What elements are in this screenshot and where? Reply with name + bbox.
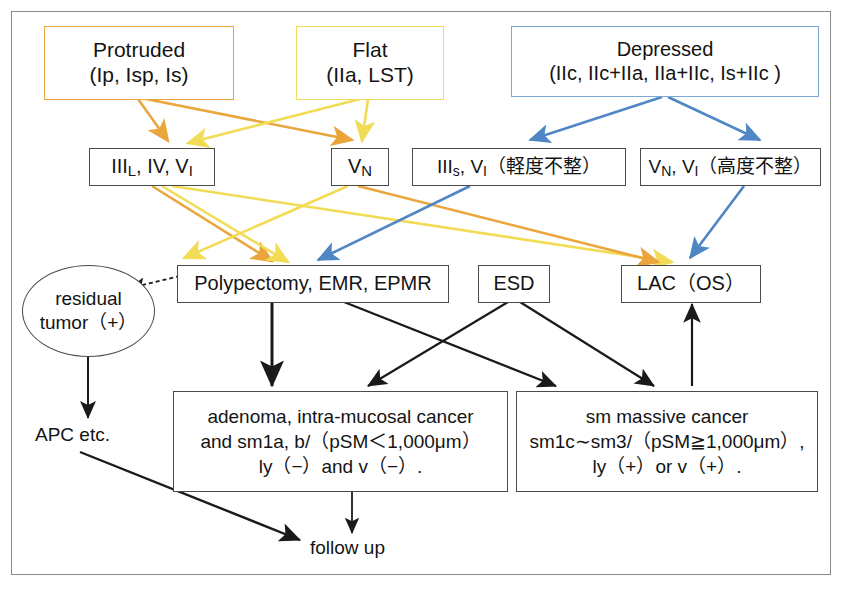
node-flat[interactable]: Flat (IIa, LST): [296, 26, 444, 100]
protruded-line1: Protruded: [93, 38, 185, 63]
arrow-protruded-to-pit-vn: [146, 99, 352, 140]
node-esd[interactable]: ESD: [478, 265, 550, 303]
node-residual-tumor[interactable]: residual tumor（+）: [22, 265, 155, 357]
pit-vn-label: VN: [348, 155, 372, 179]
outcome-left-line2: and sm1a, b/（pSM＜1,000μm）: [200, 429, 480, 454]
lac-label: LAC（OS）: [637, 272, 745, 296]
node-pit-pattern-vn[interactable]: VN: [331, 148, 389, 186]
node-pit-pattern-left[interactable]: IIIL, IV, VI: [89, 148, 215, 186]
residual-line1: residual: [55, 287, 122, 311]
node-protruded[interactable]: Protruded (Ip, Isp, Is): [44, 26, 234, 100]
outcome-right-line1: sm massive cancer: [586, 404, 749, 429]
arrow-pitvn-to-lac-orange: [358, 186, 658, 262]
arrow-pitsevere-to-lac-blue: [690, 186, 744, 258]
arrow-esd-to-outcome-left: [368, 302, 508, 386]
outcome-right-line3: ly（+）or v（+）.: [593, 454, 742, 479]
pit-left-label: IIIL, IV, VI: [111, 155, 193, 179]
depressed-line2: (IIc, IIc+IIa, IIa+IIc, Is+IIc ): [549, 62, 781, 86]
flat-line1: Flat: [352, 38, 387, 63]
node-lac[interactable]: LAC（OS）: [621, 265, 761, 303]
outcome-right-line2: sm1c∼sm3/（pSM≧1,000μm）,: [529, 429, 804, 454]
residual-line2: tumor（+）: [40, 311, 138, 335]
polypectomy-label: Polypectomy, EMR, EPMR: [194, 272, 431, 296]
protruded-line2: (Ip, Isp, Is): [89, 63, 188, 88]
arrow-flat-to-pit-vn: [362, 99, 368, 141]
node-apc[interactable]: APC etc.: [35, 424, 110, 446]
outcome-left-line1: adenoma, intra-mucosal cancer: [207, 404, 473, 429]
arrow-pitleft-to-lac-yellow: [172, 186, 672, 262]
diagram-page: Protruded (Ip, Isp, Is) Flat (IIa, LST) …: [0, 0, 844, 589]
arrow-depressed-to-pit-mild: [530, 97, 662, 140]
pit-mild-label: IIIs, VI（軽度不整）: [437, 156, 601, 178]
arrow-polypectomy-to-outcome-right: [344, 302, 556, 386]
node-outcome-right[interactable]: sm massive cancer sm1c∼sm3/（pSM≧1,000μm）…: [516, 391, 818, 492]
apc-label: APC etc.: [35, 424, 110, 445]
outcome-left-line3: ly（−）and v（−）.: [259, 454, 423, 479]
follow-up-label: follow up: [310, 537, 385, 558]
esd-label: ESD: [493, 272, 534, 296]
flat-line2: (IIa, LST): [326, 63, 414, 88]
arrow-esd-to-outcome-right: [520, 302, 654, 386]
depressed-line1: Depressed: [617, 38, 714, 62]
node-pit-pattern-mild[interactable]: IIIs, VI（軽度不整）: [412, 148, 626, 186]
arrow-protruded-to-pit-left: [138, 99, 168, 141]
node-polypectomy[interactable]: Polypectomy, EMR, EPMR: [177, 265, 449, 303]
pit-severe-label: VN, VI（高度不整）: [649, 156, 813, 178]
node-follow-up[interactable]: follow up: [310, 537, 385, 559]
arrow-depressed-to-pit-severe: [668, 97, 760, 140]
arrow-pitmild-to-polypectomy-blue: [318, 186, 470, 260]
node-depressed[interactable]: Depressed (IIc, IIc+IIa, IIa+IIc, Is+IIc…: [511, 26, 819, 97]
node-outcome-left[interactable]: adenoma, intra-mucosal cancer and sm1a, …: [173, 391, 508, 492]
arrow-pitleft-to-polypectomy-yellow: [162, 186, 288, 262]
node-pit-pattern-severe[interactable]: VN, VI（高度不整）: [640, 148, 821, 186]
